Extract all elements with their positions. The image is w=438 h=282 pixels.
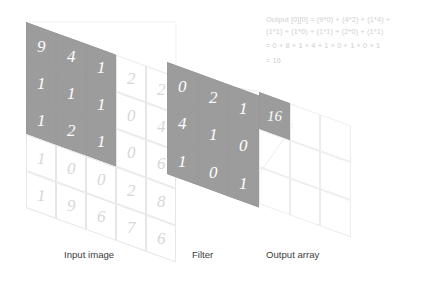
input-cell-value: 1: [37, 112, 46, 129]
convolution-equation: Output [0][0] = (9*0) + (4*2) + (1*4) + …: [266, 14, 438, 67]
input-cell-value: 2: [157, 81, 166, 98]
filter-cell-value: 4: [178, 115, 187, 132]
caption-input-image: Input image: [64, 249, 114, 260]
input-cell-value: 2: [127, 70, 136, 87]
input-cell-value: 2: [127, 182, 136, 199]
filter-cell-value: 1: [239, 175, 248, 192]
filter-cell-value: 1: [178, 152, 187, 169]
input-cell-value: 8: [157, 193, 166, 210]
input-cell-value: 1: [67, 86, 76, 103]
input-cell-value: 6: [97, 208, 106, 225]
input-cell-value: 2: [67, 123, 76, 140]
filter-cell-value: 1: [209, 126, 218, 143]
caption-filter: Filter: [192, 249, 213, 260]
input-cell-value: 0: [127, 145, 136, 162]
caption-output-array: Output array: [266, 249, 319, 260]
output-cell-value: 16: [267, 109, 282, 124]
filter-cell-value: 0: [178, 78, 187, 95]
input-cell-value: 7: [127, 219, 136, 236]
filter-cell-value: 1: [239, 100, 248, 117]
input-cell-value: 6: [157, 156, 166, 173]
input-cell-value: 1: [37, 186, 46, 203]
filter-cell-value: 0: [239, 137, 248, 154]
input-cell-value: 1: [97, 97, 106, 114]
diagram-canvas: 9412211104121061002819676 021410101 16 O…: [0, 0, 438, 282]
equation-line-4: = 16: [266, 55, 438, 67]
filter-cell-value: 0: [209, 164, 218, 181]
input-cell-value: 1: [37, 149, 46, 166]
input-cell-value: 9: [37, 38, 46, 55]
filter-cell-value: 2: [209, 89, 218, 106]
equation-line-2: (1*1) + (1*0) + (1*1) + (2*0) + (1*1): [266, 26, 438, 38]
input-cell-value: 4: [157, 118, 166, 135]
equation-line-1: Output [0][0] = (9*0) + (4*2) + (1*4) +: [266, 14, 438, 26]
input-cell-value: 1: [37, 75, 46, 92]
input-cell-value: 0: [127, 107, 136, 124]
input-cell-value: 4: [67, 48, 76, 65]
input-cell-value: 0: [97, 171, 106, 188]
input-cell-value: 1: [97, 134, 106, 151]
equation-line-3: = 0 + 8 + 1 + 4 + 1 + 0 + 1 + 0 + 1: [266, 40, 438, 52]
input-cell-value: 1: [97, 59, 106, 76]
input-image-grid: 9412211104121061002819676: [26, 22, 176, 263]
filter-grid: 021410101: [167, 62, 259, 207]
input-cell-value: 0: [67, 160, 76, 177]
input-cell-value: 6: [157, 230, 166, 247]
output-array-grid: 16: [259, 92, 351, 237]
input-cell-value: 9: [67, 197, 76, 214]
